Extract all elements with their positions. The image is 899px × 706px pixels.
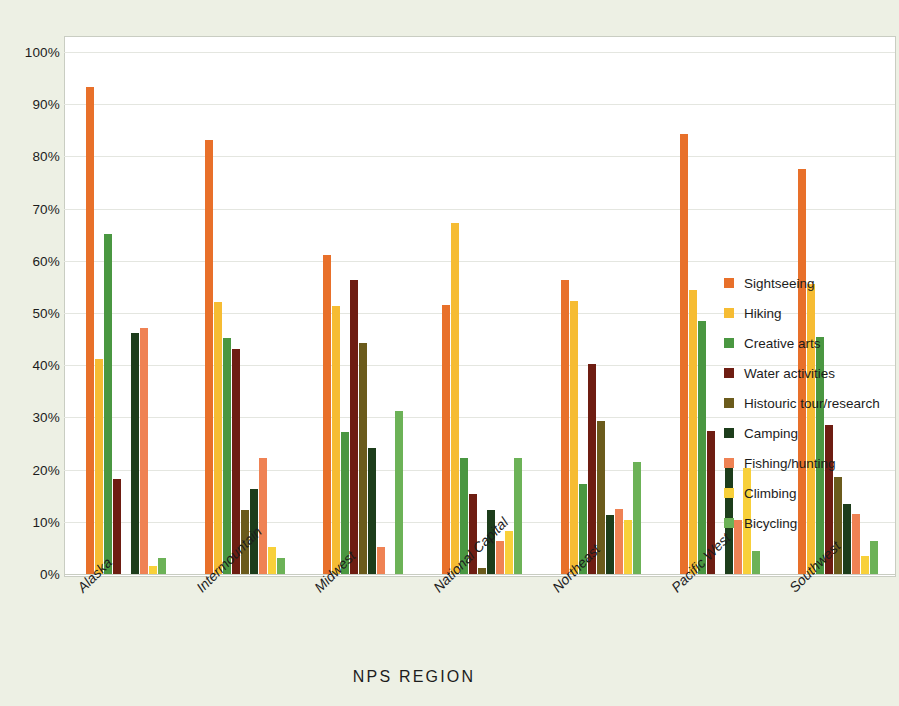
bar[interactable] bbox=[350, 280, 358, 574]
y-axis-tick-label: 90% bbox=[2, 97, 60, 112]
legend-item-label: Camping bbox=[744, 426, 798, 441]
bar[interactable] bbox=[689, 290, 697, 574]
bar[interactable] bbox=[615, 509, 623, 574]
bar[interactable] bbox=[131, 333, 139, 574]
legend-item[interactable]: Camping bbox=[724, 418, 894, 448]
x-axis-tick-labels: AlaskaIntermountainMidwestNational Capit… bbox=[64, 578, 895, 658]
bar[interactable] bbox=[496, 541, 504, 574]
bar[interactable] bbox=[870, 541, 878, 574]
bar[interactable] bbox=[395, 411, 403, 574]
bar[interactable] bbox=[478, 568, 486, 574]
x-axis-tick-cell: Pacific West bbox=[658, 578, 777, 658]
bar[interactable] bbox=[570, 301, 578, 574]
bar[interactable] bbox=[104, 234, 112, 574]
bar[interactable] bbox=[698, 321, 706, 574]
legend-item-label: Sightseeing bbox=[744, 276, 815, 291]
legend-swatch-icon bbox=[724, 398, 734, 408]
x-axis-title: NPS REGION bbox=[64, 668, 764, 686]
legend-item-label: Climbing bbox=[744, 486, 797, 501]
x-axis-tick-cell: Northeast bbox=[539, 578, 658, 658]
bar[interactable] bbox=[205, 140, 213, 574]
bar[interactable] bbox=[442, 305, 450, 574]
bar[interactable] bbox=[359, 343, 367, 574]
legend-item[interactable]: Histouric tour/research bbox=[724, 388, 894, 418]
bar[interactable] bbox=[86, 87, 94, 574]
y-axis-tick-label: 60% bbox=[2, 253, 60, 268]
legend-item-label: Hiking bbox=[744, 306, 782, 321]
legend-swatch-icon bbox=[724, 518, 734, 528]
y-axis-tick-label: 0% bbox=[2, 567, 60, 582]
bar[interactable] bbox=[505, 531, 513, 574]
bar[interactable] bbox=[680, 134, 688, 574]
bar[interactable] bbox=[277, 558, 285, 574]
bar[interactable] bbox=[861, 556, 869, 574]
legend-swatch-icon bbox=[724, 458, 734, 468]
bar-group bbox=[64, 52, 183, 574]
legend-item[interactable]: Creative arts bbox=[724, 328, 894, 358]
bar[interactable] bbox=[113, 479, 121, 574]
bar[interactable] bbox=[752, 551, 760, 574]
bar-group bbox=[301, 52, 420, 574]
y-axis: 0%10%20%30%40%50%60%70%80%90%100% bbox=[0, 52, 60, 574]
legend-swatch-icon bbox=[724, 278, 734, 288]
bar[interactable] bbox=[149, 566, 157, 574]
bar[interactable] bbox=[140, 328, 148, 574]
bar[interactable] bbox=[158, 558, 166, 574]
x-axis-tick-cell: Southwest bbox=[776, 578, 895, 658]
y-axis-tick-label: 80% bbox=[2, 149, 60, 164]
bar[interactable] bbox=[606, 515, 614, 574]
legend-item[interactable]: Fishing/hunting bbox=[724, 448, 894, 478]
bar-group bbox=[420, 52, 539, 574]
bar-group bbox=[539, 52, 658, 574]
legend-item-label: Histouric tour/research bbox=[744, 396, 880, 411]
bar[interactable] bbox=[561, 280, 569, 574]
y-axis-tick-label: 30% bbox=[2, 410, 60, 425]
legend-item[interactable]: Sightseeing bbox=[724, 268, 894, 298]
y-axis-tick-label: 20% bbox=[2, 462, 60, 477]
y-axis-tick-label: 50% bbox=[2, 306, 60, 321]
bar[interactable] bbox=[514, 458, 522, 574]
legend-item-label: Creative arts bbox=[744, 336, 821, 351]
bar[interactable] bbox=[323, 255, 331, 574]
bar-group bbox=[183, 52, 302, 574]
x-axis-tick-cell: Intermountain bbox=[183, 578, 302, 658]
bar[interactable] bbox=[259, 458, 267, 574]
legend: SightseeingHikingCreative artsWater acti… bbox=[724, 268, 894, 538]
bar[interactable] bbox=[223, 338, 231, 574]
y-axis-tick-label: 40% bbox=[2, 358, 60, 373]
y-axis-tick-label: 10% bbox=[2, 514, 60, 529]
legend-item[interactable]: Bicycling bbox=[724, 508, 894, 538]
gridline bbox=[64, 574, 895, 575]
bar[interactable] bbox=[633, 462, 641, 574]
legend-item-label: Fishing/hunting bbox=[744, 456, 836, 471]
bar[interactable] bbox=[268, 547, 276, 574]
bar-chart: 0%10%20%30%40%50%60%70%80%90%100% Alaska… bbox=[0, 0, 899, 706]
bar[interactable] bbox=[451, 223, 459, 574]
legend-swatch-icon bbox=[724, 338, 734, 348]
legend-swatch-icon bbox=[724, 368, 734, 378]
bar[interactable] bbox=[377, 547, 385, 574]
bar[interactable] bbox=[214, 302, 222, 574]
bar[interactable] bbox=[368, 448, 376, 574]
legend-swatch-icon bbox=[724, 488, 734, 498]
y-axis-tick-label: 70% bbox=[2, 201, 60, 216]
bar[interactable] bbox=[95, 359, 103, 574]
bar[interactable] bbox=[332, 306, 340, 574]
bar[interactable] bbox=[624, 520, 632, 574]
x-axis-tick-cell: Midwest bbox=[301, 578, 420, 658]
legend-item-label: Water activities bbox=[744, 366, 835, 381]
x-axis-tick-cell: National Capital bbox=[420, 578, 539, 658]
legend-item[interactable]: Hiking bbox=[724, 298, 894, 328]
y-axis-tick-label: 100% bbox=[2, 45, 60, 60]
x-axis-tick-cell: Alaska bbox=[64, 578, 183, 658]
legend-item-label: Bicycling bbox=[744, 516, 797, 531]
legend-item[interactable]: Climbing bbox=[724, 478, 894, 508]
legend-item[interactable]: Water activities bbox=[724, 358, 894, 388]
legend-swatch-icon bbox=[724, 428, 734, 438]
legend-swatch-icon bbox=[724, 308, 734, 318]
